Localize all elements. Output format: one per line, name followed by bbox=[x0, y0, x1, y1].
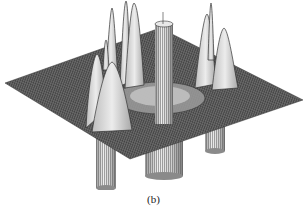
peak-cluster-right bbox=[195, 3, 238, 90]
center-spike bbox=[155, 12, 173, 124]
surface-plot bbox=[0, 0, 307, 190]
figure-caption: (b) bbox=[0, 193, 307, 205]
